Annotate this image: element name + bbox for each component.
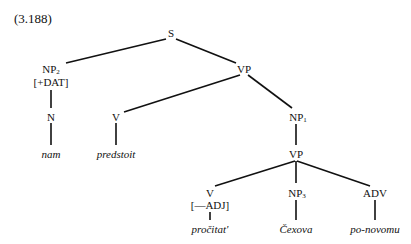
edge-s-np2 xyxy=(66,39,166,63)
edge-vp-adv xyxy=(297,161,370,186)
node-np1-label: NP xyxy=(289,111,303,123)
node-n: N xyxy=(47,111,55,123)
node-np3-label: NP xyxy=(288,187,302,199)
leaf-nam: nam xyxy=(42,148,61,160)
edge-s-vp xyxy=(176,39,236,63)
node-np3: NP3 xyxy=(288,187,306,199)
leaf-predstoit: predstoit xyxy=(97,148,136,160)
edge-vp-np1 xyxy=(248,75,292,108)
node-np3-subscript: 3 xyxy=(302,192,306,200)
node-v-low-feature: [—ADJ] xyxy=(191,199,230,211)
node-v-top: V xyxy=(112,111,120,123)
leaf-procitat: pročitat' xyxy=(192,223,229,235)
node-np2-subscript: 2 xyxy=(56,68,60,76)
node-np1: NP1 xyxy=(289,111,307,123)
edge-vp-v xyxy=(124,75,240,112)
leaf-cexova: Čexova xyxy=(280,223,313,235)
node-vp-low: VP xyxy=(289,148,303,160)
node-vp-top: VP xyxy=(237,63,251,75)
node-np2: NP2 xyxy=(42,63,60,75)
example-number: (3.188) xyxy=(14,11,52,27)
node-np1-subscript: 1 xyxy=(303,116,307,124)
node-np2-feature: [+DAT] xyxy=(34,76,69,88)
node-s: S xyxy=(168,27,174,39)
leaf-ponovomu: po-novomu xyxy=(350,223,400,235)
edge-vp-v-low xyxy=(215,161,295,186)
node-adv: ADV xyxy=(363,187,387,199)
node-np2-label: NP xyxy=(42,63,56,75)
node-v-low: V xyxy=(206,187,214,199)
